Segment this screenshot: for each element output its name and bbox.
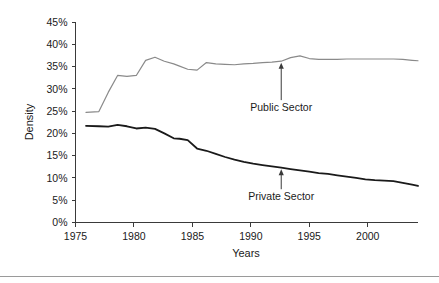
x-tick-marks bbox=[76, 223, 368, 227]
chart-figure: 0%5%10%15%20%25%30%35%40%45% Density 197… bbox=[0, 0, 439, 283]
y-tick-label: 20% bbox=[46, 127, 67, 139]
y-tick-marks bbox=[72, 22, 76, 223]
x-tick-label: 1995 bbox=[298, 230, 322, 242]
x-axis-title: Years bbox=[232, 247, 260, 259]
x-axis-group: 197519801985199019952000 Years bbox=[64, 223, 418, 260]
y-tick-label: 10% bbox=[46, 172, 67, 184]
x-tick-label: 1975 bbox=[64, 230, 88, 242]
annotation-arrow-head bbox=[279, 63, 284, 69]
y-axis-group: 0%5%10%15%20%25%30%35%40%45% Density bbox=[23, 16, 76, 229]
annotation-label-public-sector: Public Sector bbox=[250, 101, 312, 113]
y-tick-label: 30% bbox=[46, 83, 67, 95]
y-tick-label: 40% bbox=[46, 38, 67, 50]
x-tick-label: 1985 bbox=[181, 230, 205, 242]
union-density-line-chart: 0%5%10%15%20%25%30%35%40%45% Density 197… bbox=[0, 0, 439, 283]
x-tick-labels: 197519801985199019952000 bbox=[64, 230, 380, 242]
x-tick-label: 1980 bbox=[122, 230, 146, 242]
y-tick-labels: 0%5%10%15%20%25%30%35%40%45% bbox=[46, 16, 67, 229]
x-tick-label: 2000 bbox=[356, 230, 380, 242]
y-tick-label: 25% bbox=[46, 105, 67, 117]
y-tick-label: 35% bbox=[46, 60, 67, 72]
x-tick-label: 1990 bbox=[239, 230, 263, 242]
y-tick-label: 45% bbox=[46, 16, 67, 28]
annotation-group: Public SectorPrivate Sector bbox=[248, 63, 314, 203]
y-axis-title: Density bbox=[23, 103, 35, 140]
data-series-group bbox=[86, 56, 418, 186]
y-tick-label: 5% bbox=[52, 194, 67, 206]
y-tick-label: 15% bbox=[46, 149, 67, 161]
annotation-arrow-head bbox=[279, 169, 284, 175]
series-line-private-sector bbox=[86, 125, 418, 186]
y-tick-label: 0% bbox=[52, 216, 67, 228]
annotation-label-private-sector: Private Sector bbox=[248, 190, 314, 202]
